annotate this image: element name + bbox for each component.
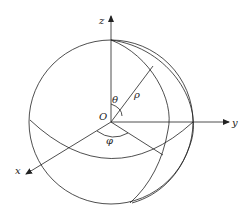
phi-label: φ [106,135,113,146]
phi-line [111,122,163,155]
x-axis-label: x [15,165,21,176]
z-axis-label: z [98,15,105,26]
origin-label: O [99,111,107,122]
rho-label: ρ [133,89,140,100]
inner-meridian [111,40,169,203]
spherical-coordinates-diagram: z y x O θ ρ φ [0,0,244,214]
theta-label: θ [112,94,118,105]
y-axis-label: y [231,117,238,128]
outer-meridian [111,40,193,203]
x-axis [26,122,111,174]
